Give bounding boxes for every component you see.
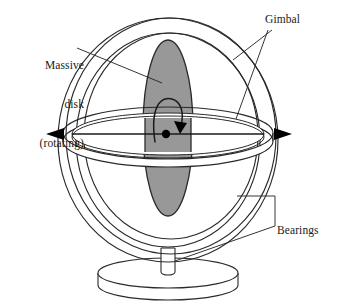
label-bearings: Bearings (277, 224, 319, 237)
right-axis-arrowhead (274, 128, 292, 140)
label-massive-disk-line3: (rotating) (12, 137, 84, 150)
label-massive-disk: Massive disk (rotating) (12, 33, 84, 176)
leader-line-bearings (175, 196, 275, 261)
center-hub (162, 130, 170, 138)
gyroscope-figure: Massive disk (rotating) Gimbal Bearings (0, 0, 337, 302)
label-massive-disk-line2: disk (12, 98, 84, 111)
label-massive-disk-line1: Massive (12, 59, 84, 72)
label-gimbal: Gimbal (265, 13, 300, 26)
